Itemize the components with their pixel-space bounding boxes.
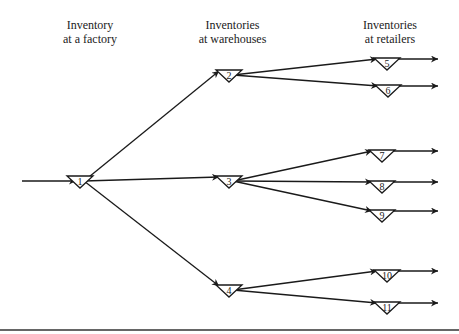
edge-3-to-7 bbox=[233, 151, 372, 181]
node-label: 4 bbox=[227, 285, 232, 296]
node-label: 7 bbox=[380, 150, 385, 161]
node-label: 10 bbox=[382, 270, 392, 281]
node-6: 6 bbox=[375, 85, 401, 97]
edge-4-to-10 bbox=[233, 271, 377, 290]
supply-chain-diagram: 1234567891011 bbox=[0, 0, 459, 334]
node-11: 11 bbox=[374, 302, 400, 314]
edge-4-to-11 bbox=[233, 290, 377, 303]
node-label: 2 bbox=[227, 70, 232, 81]
nodes-layer: 1234567891011 bbox=[67, 58, 401, 314]
node-9: 9 bbox=[369, 210, 395, 222]
node-label: 6 bbox=[386, 85, 391, 96]
edge-1-to-3 bbox=[84, 177, 219, 181]
node-label: 5 bbox=[385, 58, 390, 69]
edge-3-to-8 bbox=[233, 181, 372, 182]
edge-2-to-6 bbox=[233, 75, 378, 86]
node-label: 1 bbox=[78, 176, 83, 187]
edge-2-to-5 bbox=[233, 59, 377, 75]
node-label: 3 bbox=[227, 176, 232, 187]
edge-1-to-2 bbox=[84, 71, 219, 181]
node-8: 8 bbox=[369, 181, 395, 193]
node-label: 8 bbox=[380, 181, 385, 192]
node-label: 9 bbox=[380, 210, 385, 221]
node-label: 11 bbox=[382, 302, 392, 313]
node-1: 1 bbox=[67, 176, 93, 188]
node-5: 5 bbox=[374, 58, 400, 70]
node-10: 10 bbox=[374, 270, 400, 282]
edge-3-to-9 bbox=[233, 181, 372, 211]
node-7: 7 bbox=[369, 150, 395, 162]
edge-1-to-4 bbox=[84, 181, 219, 286]
